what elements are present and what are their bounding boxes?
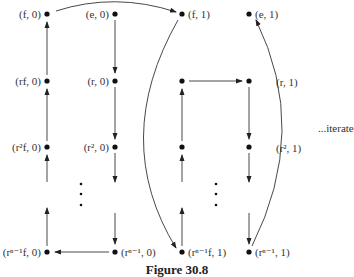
node-label-r0: (r, 0) bbox=[87, 75, 109, 87]
node-rf0 bbox=[44, 78, 49, 83]
ellipsis-dot bbox=[80, 204, 83, 207]
node-label-f1: (f, 1) bbox=[188, 8, 210, 20]
edge-rn11-e1 bbox=[252, 20, 282, 246]
node-label-r2f0: (r²f, 0) bbox=[12, 141, 41, 153]
node-e1 bbox=[246, 11, 251, 16]
node-rn1f0 bbox=[44, 249, 49, 254]
node-label-rn1f1: (rⁿ⁻¹f, 1) bbox=[188, 246, 226, 258]
ellipsis-dot bbox=[215, 183, 218, 186]
node-rn11 bbox=[246, 249, 251, 254]
node-r2f1 bbox=[179, 144, 184, 149]
iterate-note: ...iterate bbox=[318, 122, 354, 134]
ellipsis-dot bbox=[215, 204, 218, 207]
node-label-rn11: (rⁿ⁻¹, 1) bbox=[255, 246, 290, 258]
node-label-rf0: (rf, 0) bbox=[15, 75, 41, 87]
node-r20 bbox=[112, 144, 117, 149]
ellipsis-dot bbox=[80, 193, 83, 196]
node-rn1f1 bbox=[179, 249, 184, 254]
node-rf1 bbox=[179, 78, 184, 83]
node-label-e1: (e, 1) bbox=[255, 8, 278, 20]
node-e0 bbox=[112, 11, 117, 16]
node-label-e0: (e, 0) bbox=[86, 8, 109, 20]
node-label-rn1f0: (rⁿ⁻¹f, 0) bbox=[3, 246, 41, 258]
edge-f1-rn1f1 bbox=[143, 20, 178, 248]
figure-caption: Figure 30.8 bbox=[0, 262, 354, 277]
curve-label: (r², 1) bbox=[276, 142, 301, 154]
ellipsis-dot bbox=[80, 183, 83, 186]
node-f1 bbox=[179, 11, 184, 16]
node-r1 bbox=[246, 78, 251, 83]
node-f0 bbox=[44, 11, 49, 16]
node-rn10 bbox=[112, 249, 117, 254]
edge-f0-f1 bbox=[56, 2, 176, 12]
node-r21 bbox=[246, 144, 251, 149]
node-r0 bbox=[112, 78, 117, 83]
group-cycle-diagram bbox=[0, 0, 354, 277]
curve-label: (r, 1) bbox=[276, 76, 298, 88]
node-label-f0: (f, 0) bbox=[19, 8, 41, 20]
node-label-r20: (r², 0) bbox=[84, 141, 109, 153]
node-label-rn10: (rⁿ⁻¹, 0) bbox=[121, 246, 156, 258]
node-r2f0 bbox=[44, 144, 49, 149]
ellipsis-dot bbox=[215, 193, 218, 196]
